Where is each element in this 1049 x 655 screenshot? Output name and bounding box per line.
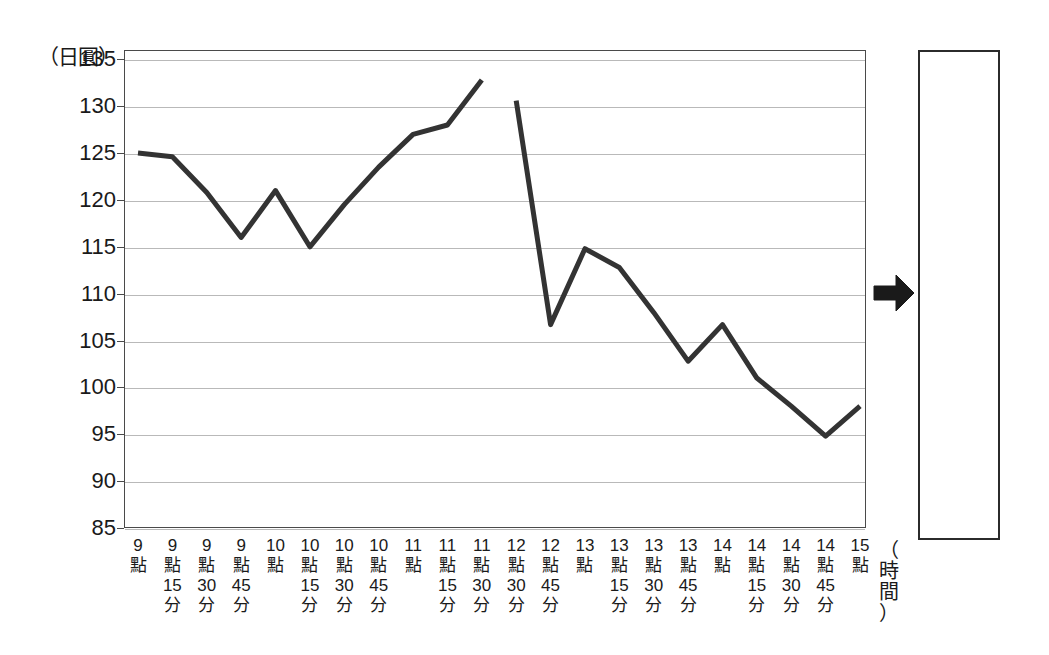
x-tick-label: 10點15分	[293, 536, 327, 616]
x-tick-line: 分	[293, 596, 327, 616]
x-tick-line	[259, 576, 293, 596]
x-tick-line: 10	[259, 536, 293, 556]
x-tick-line: 點	[224, 556, 258, 576]
x-axis-name-label: （時間）	[872, 540, 906, 624]
y-axis-tick-labels: 135130125120115110105100959085	[52, 50, 116, 528]
x-tick-line: 13	[602, 536, 636, 556]
y-tick-label: 120	[60, 189, 116, 211]
x-tick-line: 分	[465, 596, 499, 616]
x-tick-line: 9	[190, 536, 224, 556]
x-axis-name-char: （	[872, 540, 906, 561]
x-tick-line: 點	[465, 556, 499, 576]
y-tickmark-110	[117, 294, 124, 295]
x-tick-line	[259, 596, 293, 616]
x-tick-line	[568, 596, 602, 616]
x-tick-label: 11點30分	[465, 536, 499, 616]
x-tick-line: 30	[327, 576, 361, 596]
x-tick-line: 15	[293, 576, 327, 596]
x-tick-line	[705, 576, 739, 596]
x-tick-line: 15	[430, 576, 464, 596]
x-tick-line: 9	[224, 536, 258, 556]
x-tick-line: 13	[637, 536, 671, 556]
x-tick-line: 分	[637, 596, 671, 616]
x-tick-line: 9	[155, 536, 189, 556]
x-tick-line: 14	[740, 536, 774, 556]
y-tick-label: 110	[60, 283, 116, 305]
x-tick-line: 點	[809, 556, 843, 576]
x-axis-name-char: 間	[872, 582, 906, 603]
x-tick-line: 10	[327, 536, 361, 556]
data-series-layer	[124, 50, 866, 528]
x-tick-line: 45	[534, 576, 568, 596]
x-tick-line	[121, 576, 155, 596]
x-tick-line: 15	[740, 576, 774, 596]
x-tick-line: 分	[362, 596, 396, 616]
x-tick-line: 分	[774, 596, 808, 616]
x-tick-line: 分	[155, 596, 189, 616]
line-series-afternoon-session	[516, 101, 860, 437]
x-tick-line: 點	[568, 556, 602, 576]
x-tick-line: 分	[671, 596, 705, 616]
x-tick-line: 點	[327, 556, 361, 576]
y-tick-label: 135	[60, 48, 116, 70]
x-tick-line: 30	[190, 576, 224, 596]
x-tick-line: 12	[499, 536, 533, 556]
x-tick-label: 13點	[568, 536, 602, 616]
x-axis-name-char: 時	[872, 561, 906, 582]
x-tick-line: 45	[362, 576, 396, 596]
x-tick-line: 分	[809, 596, 843, 616]
y-tickmark-105	[117, 341, 124, 342]
x-tick-label: 9點	[121, 536, 155, 616]
x-tick-line: 分	[224, 596, 258, 616]
y-tickmark-125	[117, 153, 124, 154]
y-tickmark-120	[117, 200, 124, 201]
x-tick-line: 13	[671, 536, 705, 556]
y-tickmark-100	[117, 387, 124, 388]
x-tick-line: 13	[568, 536, 602, 556]
x-tick-line: 點	[121, 556, 155, 576]
x-tick-label: 14點45分	[809, 536, 843, 616]
x-tick-line: 30	[637, 576, 671, 596]
line-series-morning-session	[138, 80, 482, 247]
x-tick-line	[121, 596, 155, 616]
x-tick-line: 11	[430, 536, 464, 556]
x-tick-line: 點	[499, 556, 533, 576]
x-tick-line: 分	[602, 596, 636, 616]
x-tick-line: 點	[637, 556, 671, 576]
x-tick-line: 11	[465, 536, 499, 556]
x-tick-line: 14	[809, 536, 843, 556]
right-arrow-icon	[872, 272, 916, 314]
x-tick-line: 分	[740, 596, 774, 616]
x-tick-line: 10	[362, 536, 396, 556]
x-tick-label: 9點15分	[155, 536, 189, 616]
x-tick-label: 11點	[396, 536, 430, 616]
x-tick-line: 點	[705, 556, 739, 576]
y-tickmark-95	[117, 434, 124, 435]
x-tick-line: 11	[396, 536, 430, 556]
x-tick-line: 點	[259, 556, 293, 576]
x-tick-label: 10點45分	[362, 536, 396, 616]
x-tick-line: 點	[430, 556, 464, 576]
x-tick-label: 13點45分	[671, 536, 705, 616]
x-tick-line: 分	[327, 596, 361, 616]
x-tick-line: 30	[499, 576, 533, 596]
x-tick-label: 14點30分	[774, 536, 808, 616]
x-tick-label: 10點	[259, 536, 293, 616]
x-tick-line: 點	[602, 556, 636, 576]
x-tick-line: 分	[430, 596, 464, 616]
x-tick-line: 14	[774, 536, 808, 556]
y-tickmark-130	[117, 106, 124, 107]
x-tick-label: 13點15分	[602, 536, 636, 616]
x-tick-label: 14點	[705, 536, 739, 616]
x-tick-label: 11點15分	[430, 536, 464, 616]
y-tick-label: 130	[60, 95, 116, 117]
y-tick-label: 95	[60, 423, 116, 445]
y-tickmark-135	[117, 59, 124, 60]
x-tick-line: 10	[293, 536, 327, 556]
x-tick-line: 點	[362, 556, 396, 576]
x-tick-line: 30	[774, 576, 808, 596]
x-tick-line: 30	[465, 576, 499, 596]
x-tick-label: 12點30分	[499, 536, 533, 616]
x-tick-line: 點	[396, 556, 430, 576]
y-tick-label: 105	[60, 330, 116, 352]
